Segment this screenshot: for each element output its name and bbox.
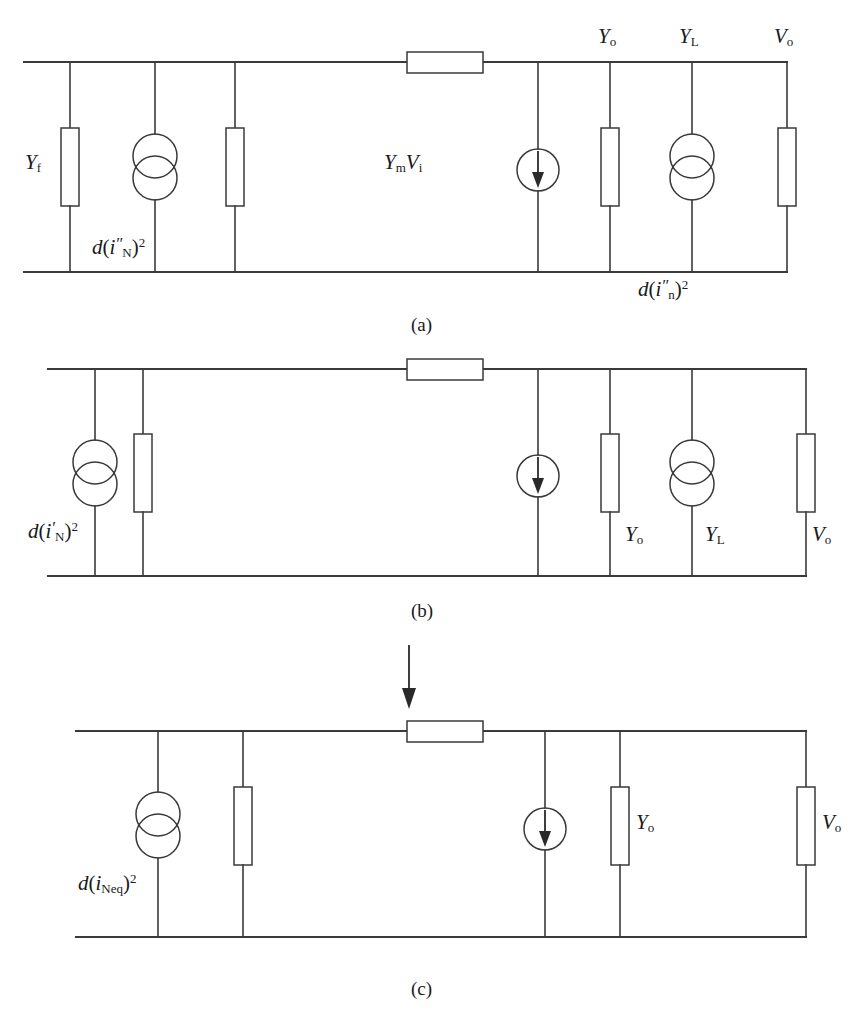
panel-c-resistor-yo (611, 787, 629, 865)
panel-a-label-vo: Vo (774, 26, 793, 48)
panel-c-series-resistor (407, 721, 483, 742)
panel-a-resistor-yf (61, 128, 79, 206)
panel-c-circuit (76, 721, 815, 937)
panel-a-label-noise-source-left: d(i″N)2 (92, 236, 145, 259)
panel-b-label-noise-source: d(i′N)2 (28, 520, 78, 543)
panel-c-caption: (c) (411, 978, 432, 1000)
panel-b-caption: (b) (411, 600, 433, 622)
panel-a-label-yl: YL (679, 26, 699, 48)
panel-c-label-yo: Yo (636, 812, 654, 834)
figure-root: Yf d(i″N)2 YmVi Yo YL Vo d(i″n)2 (a) d(i… (0, 0, 853, 1022)
panel-c-label-noise-source: d(iNeq)2 (78, 872, 137, 895)
panel-a-series-resistor (407, 52, 483, 73)
circuit-canvas (0, 0, 853, 1022)
panel-b-dependent-source-arrow-head (532, 478, 544, 494)
panel-a-label-yo: Yo (598, 26, 616, 48)
panel-b-resistor-vo (797, 434, 815, 512)
panel-b-series-resistor (407, 359, 483, 380)
panel-c-dependent-source-arrow-head (539, 831, 551, 847)
panel-b-label-yo: Yo (625, 524, 643, 546)
panel-b-label-vo: Vo (812, 524, 831, 546)
panel-a-label-noise-source-right: d(i″n)2 (638, 278, 688, 301)
transformation-arrow (402, 645, 416, 709)
panel-a-label-yf: Yf (25, 152, 41, 174)
panel-a-dependent-source-arrow-head (532, 172, 544, 188)
panel-b-circuit (48, 359, 815, 576)
panel-a-resistor-vo (778, 128, 796, 206)
panel-c-resistor-input (234, 787, 252, 865)
panel-c-resistor-vo (797, 787, 815, 865)
down-arrow-head (402, 688, 416, 709)
panel-b-resistor-input (134, 434, 152, 512)
panel-a-caption: (a) (411, 314, 432, 336)
panel-c-label-vo: Vo (822, 812, 841, 834)
panel-b-resistor-yo (601, 434, 619, 512)
panel-a-resistor-input (226, 128, 244, 206)
panel-a-label-dependent-source: YmVi (384, 152, 422, 174)
panel-b-label-yl: YL (705, 524, 725, 546)
panel-a-resistor-yo (601, 128, 619, 206)
